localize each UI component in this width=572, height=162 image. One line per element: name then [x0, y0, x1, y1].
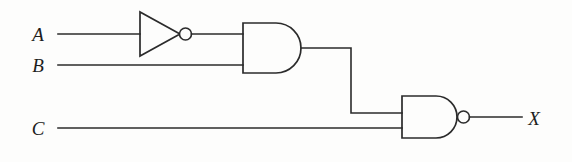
logic-circuit-diagram: A B C X — [0, 0, 572, 162]
input-label-a: A — [30, 24, 44, 45]
output-label-x: X — [527, 108, 541, 129]
pin-label-layer: A B C X — [0, 0, 572, 162]
input-label-b: B — [32, 55, 44, 76]
input-label-c: C — [32, 118, 45, 139]
